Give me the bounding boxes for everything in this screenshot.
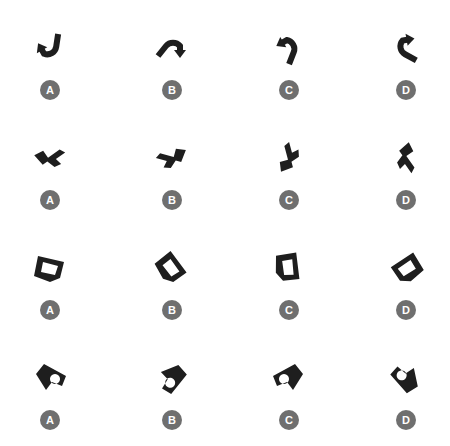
zigzag-shape-icon (142, 130, 202, 186)
option-badge: D (396, 300, 416, 320)
option-row4-a[interactable]: A (20, 350, 80, 430)
option-row2-d[interactable]: D (376, 130, 436, 210)
option-badge: D (396, 190, 416, 210)
option-row3-d[interactable]: D (376, 240, 436, 320)
option-row3-c[interactable]: C (259, 240, 319, 320)
hollow-pentagon-icon (259, 240, 319, 296)
option-badge: C (279, 300, 299, 320)
curved-arrow-icon (20, 20, 80, 76)
option-row1-d[interactable]: D (376, 20, 436, 100)
hollow-pentagon-icon (20, 240, 80, 296)
option-row1-a[interactable]: A (20, 20, 80, 100)
zigzag-shape-icon (20, 130, 80, 186)
curved-arrow-icon (259, 20, 319, 76)
option-badge: D (396, 80, 416, 100)
l-shape-hole-icon (20, 350, 80, 406)
l-shape-hole-icon (376, 350, 436, 406)
option-badge: A (40, 80, 60, 100)
option-badge: B (162, 410, 182, 430)
l-shape-hole-icon (259, 350, 319, 406)
option-row3-a[interactable]: A (20, 240, 80, 320)
option-badge: C (279, 410, 299, 430)
option-row4-c[interactable]: C (259, 350, 319, 430)
hollow-pentagon-icon (142, 240, 202, 296)
option-row4-d[interactable]: D (376, 350, 436, 430)
option-badge: A (40, 300, 60, 320)
option-row2-a[interactable]: A (20, 130, 80, 210)
option-badge: B (162, 80, 182, 100)
curved-arrow-icon (142, 20, 202, 76)
option-badge: D (396, 410, 416, 430)
option-row3-b[interactable]: B (142, 240, 202, 320)
option-row4-b[interactable]: B (142, 350, 202, 430)
hollow-pentagon-icon (376, 240, 436, 296)
option-badge: B (162, 300, 182, 320)
option-badge: B (162, 190, 182, 210)
curved-arrow-icon (376, 20, 436, 76)
option-badge: C (279, 190, 299, 210)
option-badge: C (279, 80, 299, 100)
l-shape-hole-icon (142, 350, 202, 406)
option-row1-c[interactable]: C (259, 20, 319, 100)
option-row1-b[interactable]: B (142, 20, 202, 100)
zigzag-shape-icon (259, 130, 319, 186)
option-row2-b[interactable]: B (142, 130, 202, 210)
option-row2-c[interactable]: C (259, 130, 319, 210)
zigzag-shape-icon (376, 130, 436, 186)
option-badge: A (40, 410, 60, 430)
option-badge: A (40, 190, 60, 210)
